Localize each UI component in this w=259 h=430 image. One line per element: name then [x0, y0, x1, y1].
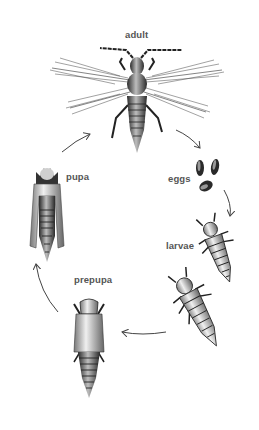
arrow-pupa-to-adult — [62, 134, 90, 152]
larva-illustration-2 — [161, 262, 234, 354]
pupa-illustration — [30, 168, 64, 262]
life-cycle-diagram: adult eggs larvae prepupa pupa — [0, 0, 259, 430]
label-prepupa: prepupa — [74, 274, 112, 285]
arrow-prepupa-to-pupa — [36, 264, 58, 312]
illustration-layer — [0, 0, 259, 430]
eggs-illustration — [196, 158, 220, 193]
label-eggs: eggs — [168, 173, 191, 184]
adult-thrips-illustration — [50, 48, 224, 153]
arrow-adult-to-eggs — [176, 130, 200, 148]
prepupa-illustration — [74, 299, 104, 398]
label-larvae: larvae — [166, 240, 194, 251]
arrow-eggs-to-larvae — [224, 190, 230, 216]
larva-illustration-1 — [191, 210, 247, 287]
arrow-larvae-to-prepupa — [122, 332, 166, 334]
label-adult: adult — [125, 29, 148, 40]
label-pupa: pupa — [66, 171, 89, 182]
